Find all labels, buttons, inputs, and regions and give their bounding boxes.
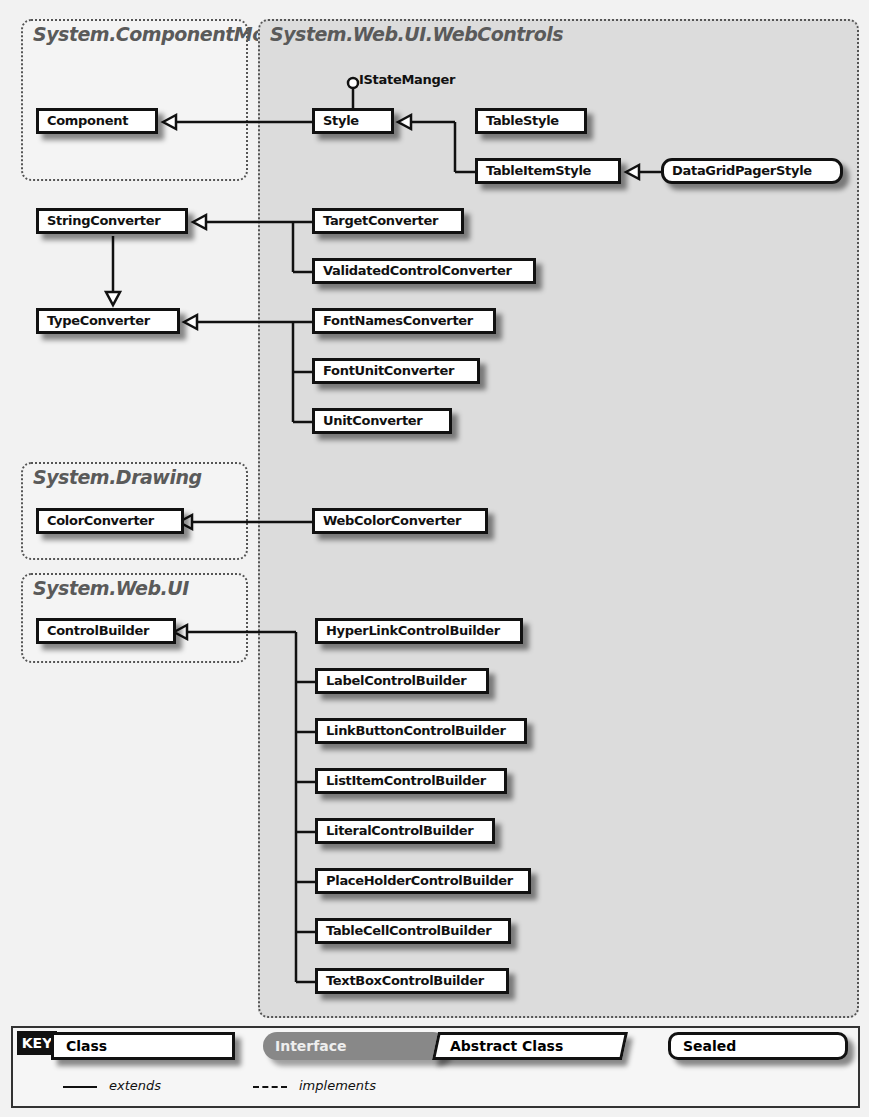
class-tablestyle[interactable]: TableStyle xyxy=(475,108,587,134)
class-typeconverter[interactable]: TypeConverter xyxy=(36,308,180,334)
class-webcolorconverter[interactable]: WebColorConverter xyxy=(312,508,488,534)
class-fontunitconverter[interactable]: FontUnitConverter xyxy=(312,358,480,384)
class-labelcontrolbuilder[interactable]: LabelControlBuilder xyxy=(315,668,489,694)
class-stringconverter[interactable]: StringConverter xyxy=(36,208,188,234)
class-textboxcontrolbuilder[interactable]: TextBoxControlBuilder xyxy=(315,968,509,994)
class-linkbuttoncontrolbuilder[interactable]: LinkButtonControlBuilder xyxy=(315,718,527,744)
key-class-swatch: Class xyxy=(51,1032,235,1060)
class-listitemcontrolbuilder[interactable]: ListItemControlBuilder xyxy=(315,768,507,794)
solid-line-icon xyxy=(63,1086,97,1088)
class-hyperlinkcontrolbuilder[interactable]: HyperLinkControlBuilder xyxy=(315,618,523,644)
key-abstract-label: Abstract Class xyxy=(450,1035,563,1057)
legend-implements: implements xyxy=(253,1078,376,1093)
dashed-line-icon xyxy=(253,1086,287,1088)
class-literalcontrolbuilder[interactable]: LiteralControlBuilder xyxy=(315,818,495,844)
class-targetconverter[interactable]: TargetConverter xyxy=(312,208,464,234)
class-datagridpagerstyle[interactable]: DataGridPagerStyle xyxy=(661,158,843,184)
legend-extends: extends xyxy=(63,1078,161,1093)
class-style[interactable]: Style xyxy=(312,108,394,134)
class-component[interactable]: Component xyxy=(36,108,158,134)
class-unitconverter[interactable]: UnitConverter xyxy=(312,408,452,434)
class-controlbuilder[interactable]: ControlBuilder xyxy=(36,618,176,644)
class-tablecellcontrolbuilder[interactable]: TableCellControlBuilder xyxy=(315,918,511,944)
class-tableitemstyle[interactable]: TableItemStyle xyxy=(475,158,621,184)
key-abstract-class-swatch: Abstract Class xyxy=(432,1032,628,1060)
class-fontnamesconverter[interactable]: FontNamesConverter xyxy=(312,308,496,334)
class-placeholdercontrolbuilder[interactable]: PlaceHolderControlBuilder xyxy=(315,868,531,894)
interface-label-istatemanager: IStateManger xyxy=(359,72,455,87)
legend-implements-label: implements xyxy=(299,1078,376,1093)
class-validatedcontrolconverter[interactable]: ValidatedControlConverter xyxy=(312,258,536,284)
legend-extends-label: extends xyxy=(109,1078,161,1093)
key-sealed-swatch: Sealed xyxy=(668,1032,848,1060)
key-interface-swatch: Interface xyxy=(263,1032,447,1060)
legend-key: KEY Class Interface Abstract Class Seale… xyxy=(11,1026,860,1108)
class-colorconverter[interactable]: ColorConverter xyxy=(36,508,184,534)
